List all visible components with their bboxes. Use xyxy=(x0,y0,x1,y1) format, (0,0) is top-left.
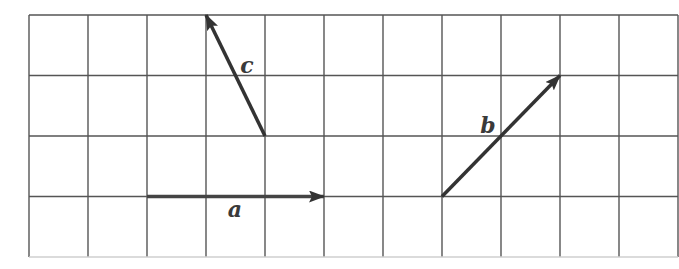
vector-b-label: b xyxy=(480,112,495,138)
vector-a-label: a xyxy=(228,196,242,222)
grid-lines xyxy=(29,15,678,257)
vectors: abc xyxy=(147,15,560,222)
vector-grid-diagram: abc xyxy=(0,0,679,269)
vector-c-label: c xyxy=(240,52,254,78)
